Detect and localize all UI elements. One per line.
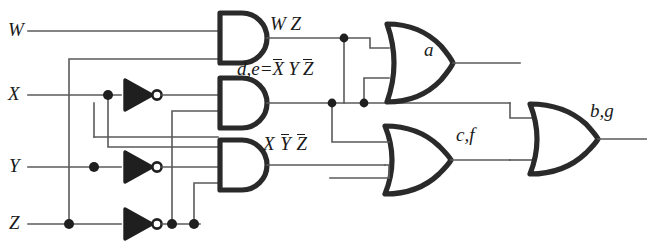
term-de-xbar: X: [273, 58, 285, 78]
output-label-a: a: [424, 40, 434, 59]
term-de-zbar: Z: [303, 58, 314, 78]
circuit-schematic-canvas: [0, 0, 647, 250]
term-xyz-zbar: Z: [297, 133, 308, 153]
term-xyz-ybar: Y: [280, 133, 291, 153]
wire-xyz-to-or-cf: [330, 165, 389, 178]
input-label-y: Y: [9, 156, 20, 175]
term-xyz-x: X: [263, 133, 275, 154]
term-label-de: d,e=XYZ: [237, 58, 314, 78]
output-label-bg: b,g: [590, 101, 614, 120]
or-gate-a: [387, 24, 520, 102]
inverter-x: [125, 80, 218, 110]
term-label-wz: W Z: [270, 14, 301, 33]
or-gate-bg: [530, 104, 647, 174]
term-de-y: Y: [288, 58, 299, 79]
term-de-prefix: d,e=: [237, 58, 273, 79]
wire-zbar-to-and-xyz: [194, 183, 218, 224]
input-label-w: W: [8, 20, 24, 39]
wire-de-to-or-cf: [328, 99, 389, 142]
or-gate-cf: [385, 126, 510, 194]
term-label-xyz: XYZ: [263, 133, 307, 153]
input-label-z: Z: [9, 213, 20, 232]
wire-z-to-and-wz: [69, 59, 218, 224]
output-label-cf: c,f: [456, 125, 474, 144]
input-label-x: X: [8, 84, 20, 103]
inverter-z: [125, 209, 200, 239]
logic-circuit-diagram: W X Y Z W Z d,e=XYZ XYZ a c,f b,g: [0, 0, 647, 250]
